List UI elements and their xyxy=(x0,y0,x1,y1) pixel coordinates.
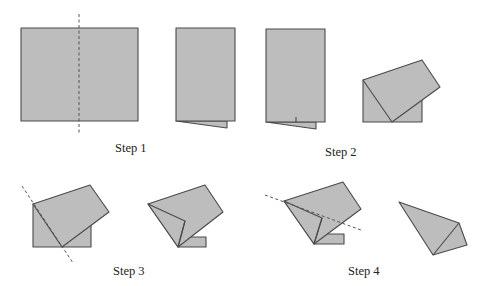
front-panel xyxy=(176,28,235,121)
back-flap xyxy=(266,122,316,129)
figure-flap-folded-inward xyxy=(148,185,223,247)
front-panel xyxy=(266,29,325,122)
figure-flap-with-diagonal-fold xyxy=(22,185,109,263)
figure-kite-with-fold-line xyxy=(265,182,361,244)
kite-shape xyxy=(399,202,467,255)
figure-rotated-flap xyxy=(363,60,440,122)
figure-half-folded-sheet xyxy=(176,28,235,128)
figure-finished-kite xyxy=(399,202,467,255)
back-flap xyxy=(176,121,227,128)
figure-square-sheet xyxy=(21,14,138,135)
step-1-label: Step 1 xyxy=(115,142,147,155)
step-4-label: Step 4 xyxy=(348,265,380,278)
figure-half-folded-sheet-creased xyxy=(266,29,325,129)
origami-diagram xyxy=(0,0,486,286)
step-2-label: Step 2 xyxy=(325,146,357,159)
step-3-label: Step 3 xyxy=(113,265,145,278)
